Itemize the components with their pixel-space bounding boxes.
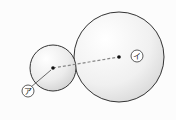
- label-a: ア: [24, 87, 32, 96]
- label-i: イ: [133, 52, 141, 61]
- large-center-dot: [117, 55, 121, 59]
- label-i-badge: イ: [131, 50, 143, 62]
- diagram-canvas: ア イ: [0, 0, 176, 120]
- circles-diagram: ア イ: [0, 0, 176, 120]
- small-center-dot: [51, 66, 55, 70]
- label-a-badge: ア: [22, 85, 34, 97]
